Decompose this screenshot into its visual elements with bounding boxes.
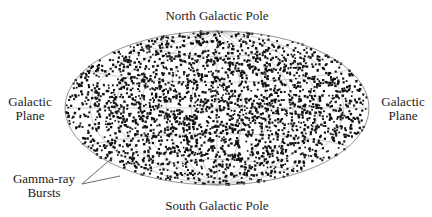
galactic-plane-left-label-line1: Galactic (8, 94, 52, 109)
galactic-plane-right-label-line2: Plane (389, 108, 418, 123)
south-galactic-pole-label: South Galactic Pole (165, 198, 268, 213)
gamma-ray-burst-sky-map: North Galactic Pole South Galactic Pole … (0, 0, 432, 217)
gamma-ray-bursts-label-line2: Bursts (27, 185, 60, 200)
annotation-leader-line-1 (82, 158, 112, 184)
sky-map-svg: North Galactic Pole South Galactic Pole … (0, 0, 432, 217)
annotation-leader-line-2 (82, 176, 120, 184)
galactic-plane-left-label-line2: Plane (16, 108, 45, 123)
north-galactic-pole-label: North Galactic Pole (165, 8, 268, 23)
gamma-ray-bursts-label-line1: Gamma-ray (13, 171, 76, 186)
galactic-plane-right-label-line1: Galactic (381, 94, 425, 109)
coordinate-grid (65, 31, 369, 185)
